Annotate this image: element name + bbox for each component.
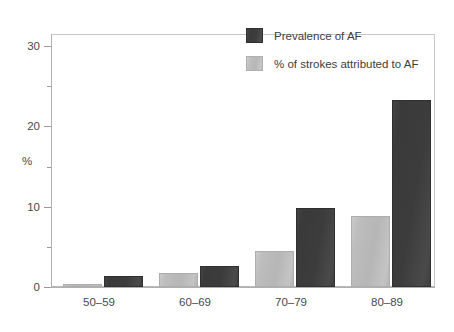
legend-label-strokes: % of strokes attributed to AF [274,58,418,70]
bar-prevalence [200,266,239,287]
bar-prevalence [296,208,335,288]
bar-prevalence [392,100,431,287]
y-tick-label: 10 [0,201,40,213]
y-axis-title: % [22,155,32,167]
bar-strokes [351,216,390,287]
bar-strokes [159,273,198,287]
x-axis-line [51,287,435,288]
bar-strokes [63,284,102,287]
y-tick-label: 30 [0,40,40,52]
x-tick-label: 50–59 [83,296,115,308]
legend-swatch-dark-icon [246,28,263,43]
y-tick-minor [47,247,51,248]
y-tick-minor [47,86,51,87]
y-tick-major [44,207,51,208]
legend-label-prevalence: Prevalence of AF [274,30,362,42]
x-tick-label: 70–79 [275,296,307,308]
x-tick-label: 60–69 [179,296,211,308]
legend-item-strokes: % of strokes attributed to AF [246,56,418,71]
x-tick-label: 80–89 [371,296,403,308]
legend-item-prevalence: Prevalence of AF [246,28,418,43]
y-tick-label: 0 [0,281,40,293]
chart-container: % 0102030 50–5960–6970–7980–89 Prevalenc… [0,0,454,332]
y-tick-major [44,46,51,47]
legend-swatch-light-icon [246,56,263,71]
chart-legend: Prevalence of AF % of strokes attributed… [246,28,418,84]
bar-strokes [255,251,294,287]
y-tick-minor [47,167,51,168]
bar-prevalence [104,276,143,287]
y-tick-label: 20 [0,120,40,132]
y-tick-major [44,126,51,127]
y-tick-major [44,287,51,288]
